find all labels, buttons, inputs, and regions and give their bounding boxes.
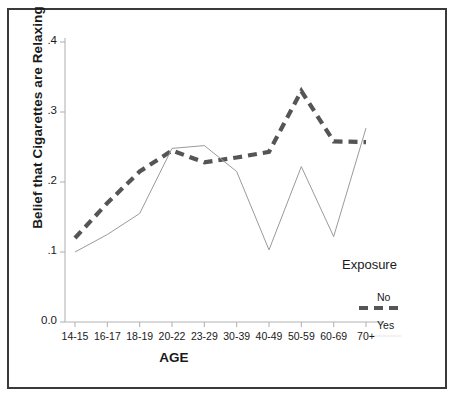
caption-strip <box>7 398 447 412</box>
y-tick-label: .1 <box>23 244 57 256</box>
axes <box>60 38 384 327</box>
legend-label-no[interactable]: No <box>377 291 390 303</box>
figure-container: 0.0.1.2.3.4 14-1516-1718-1920-2223-2930-… <box>0 0 455 415</box>
y-axis-title: Belief that Cigarettes are Relaxing <box>30 0 45 238</box>
plot-canvas: 0.0.1.2.3.4 14-1516-1718-1920-2223-2930-… <box>9 10 449 391</box>
legend-label-yes[interactable]: Yes <box>377 319 394 331</box>
chart-frame: 0.0.1.2.3.4 14-1516-1718-1920-2223-2930-… <box>7 8 447 389</box>
legend-title: Exposure <box>342 257 397 272</box>
data-series <box>75 91 366 252</box>
x-axis-title: AGE <box>9 350 339 365</box>
y-tick-label: 0.0 <box>23 314 57 326</box>
x-tick-label: 70+ <box>343 330 389 342</box>
